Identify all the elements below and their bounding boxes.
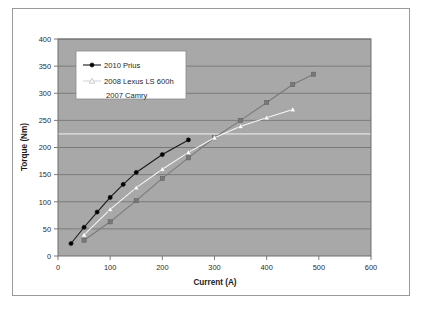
y-axis-title: Torque (Nm) <box>20 123 29 171</box>
chart-svg: 050100150200250300350400 010020030040050… <box>13 9 411 297</box>
y-tick-label: 100 <box>39 198 51 207</box>
chart-legend: 2010 Prius2008 Lexus LS 600h2007 Camry <box>76 51 186 100</box>
data-point-marker <box>186 138 190 142</box>
x-tick-label: 500 <box>313 263 325 272</box>
x-tick-label: 300 <box>208 263 220 272</box>
y-tick-label: 150 <box>39 170 51 179</box>
data-point-marker <box>238 118 242 122</box>
x-axis-ticks: 0100200300400500600 <box>56 256 377 272</box>
x-tick-label: 100 <box>104 263 116 272</box>
data-point-marker <box>160 152 164 156</box>
x-tick-label: 400 <box>260 263 272 272</box>
y-tick-label: 50 <box>43 225 51 234</box>
y-tick-label: 250 <box>39 116 51 125</box>
data-point-marker <box>134 170 138 174</box>
y-tick-label: 350 <box>39 62 51 71</box>
x-tick-label: 600 <box>365 263 377 272</box>
y-tick-label: 200 <box>39 143 51 152</box>
data-point-marker <box>82 225 86 229</box>
data-point-marker <box>312 72 316 76</box>
y-tick-label: 400 <box>39 35 51 44</box>
x-tick-label: 200 <box>156 263 168 272</box>
data-point-marker <box>108 195 112 199</box>
x-axis-title: Current (A) <box>193 278 236 287</box>
data-point-marker <box>95 210 99 214</box>
data-point-marker <box>69 241 73 245</box>
data-point-marker <box>121 182 125 186</box>
legend-label: 2007 Camry <box>106 91 148 100</box>
y-tick-label: 0 <box>47 252 51 261</box>
legend-label: 2008 Lexus LS 600h <box>104 77 174 86</box>
data-point-marker <box>291 82 295 86</box>
data-point-marker <box>90 63 94 67</box>
data-point-marker <box>186 156 190 160</box>
data-point-marker <box>265 100 269 104</box>
torque-vs-current-chart: 050100150200250300350400 010020030040050… <box>13 9 411 297</box>
x-tick-label: 0 <box>56 263 60 272</box>
data-point-marker <box>160 176 164 180</box>
figure-frame: 050100150200250300350400 010020030040050… <box>12 8 410 296</box>
data-point-marker <box>82 238 86 242</box>
y-tick-label: 300 <box>39 89 51 98</box>
data-point-marker <box>134 199 138 203</box>
legend-label: 2010 Prius <box>104 61 141 70</box>
y-axis-ticks: 050100150200250300350400 <box>39 35 58 261</box>
data-point-marker <box>108 220 112 224</box>
